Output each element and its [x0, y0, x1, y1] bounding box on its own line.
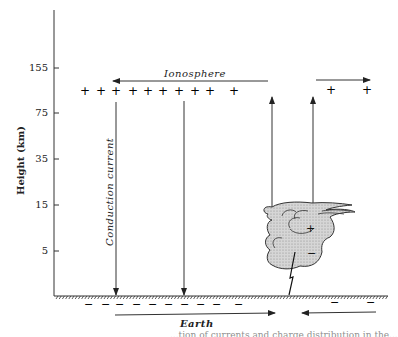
thundercloud: + −	[264, 202, 355, 269]
charge-minus: −	[212, 298, 221, 311]
charge-minus: −	[115, 298, 124, 311]
charge-minus: −	[164, 298, 173, 311]
charge-minus: −	[148, 298, 157, 311]
charge-plus: +	[326, 83, 336, 97]
earth-label: Earth	[180, 318, 214, 329]
diagram-graphics: + −	[0, 0, 398, 337]
y-axis-title: Height (km)	[15, 126, 26, 195]
charge-minus: −	[101, 298, 110, 311]
charge-plus: +	[174, 84, 184, 98]
cloud-positive-charge: +	[306, 222, 315, 235]
earth-current-arrows	[115, 312, 376, 315]
y-axis	[54, 10, 59, 296]
caption-fragment: ...tion of currents and charge distribut…	[170, 330, 398, 337]
y-tick-75: 75	[18, 107, 48, 118]
charge-minus: −	[330, 296, 339, 309]
y-tick-15: 15	[18, 199, 48, 210]
charge-plus: +	[158, 84, 168, 98]
charge-minus: −	[180, 298, 189, 311]
charge-minus: −	[366, 296, 375, 309]
charge-plus: +	[96, 84, 106, 98]
charge-plus: +	[143, 84, 153, 98]
charge-plus: +	[80, 84, 90, 98]
cloud-upward-current-arrows	[272, 97, 313, 212]
charge-minus: −	[234, 298, 243, 311]
charge-plus: +	[205, 84, 215, 98]
charge-plus: +	[190, 84, 200, 98]
charge-minus: −	[84, 298, 93, 311]
ionosphere-label: Ionosphere	[164, 68, 226, 79]
conduction-current-arrows	[116, 101, 184, 295]
charge-plus: +	[128, 84, 138, 98]
y-tick-155: 155	[18, 62, 48, 73]
conduction-current-label: Conduction current	[104, 138, 115, 246]
charge-plus: +	[362, 83, 372, 97]
charge-minus: −	[132, 298, 141, 311]
diagram-canvas: + − 155 75 35 15 5 Height (km) Ionospher…	[0, 0, 398, 337]
ionosphere-current-arrows	[113, 80, 370, 81]
charge-minus: −	[196, 298, 205, 311]
charge-plus: +	[229, 84, 239, 98]
charge-plus: +	[111, 84, 121, 98]
y-tick-5: 5	[18, 245, 48, 256]
cloud-negative-charge: −	[307, 247, 316, 260]
